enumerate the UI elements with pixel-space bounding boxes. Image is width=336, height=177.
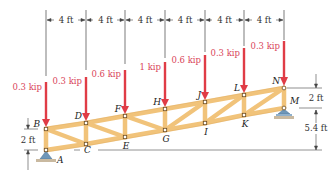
load-label-d: 0.3 kip <box>52 76 82 86</box>
node-label-m: M <box>289 96 300 106</box>
load-label-j: 0.6 kip <box>171 55 201 65</box>
load-label-n: 0.3 kip <box>250 41 280 51</box>
load-label-b: 0.3 kip <box>12 82 42 92</box>
dimension-label: 4 ft <box>217 15 232 25</box>
node-label-c: C <box>84 145 91 155</box>
node-label-h: H <box>152 97 161 107</box>
dimension-label: 4 ft <box>59 15 74 25</box>
pin-support-a <box>36 151 56 162</box>
dimension-label: 4 ft <box>138 15 153 25</box>
node-label-l: L <box>233 83 240 93</box>
node-label-b: B <box>32 119 40 129</box>
right-dimension-label-top: 2 ft <box>309 93 324 103</box>
node-label-k: K <box>241 119 250 129</box>
right-height-dimensions <box>287 74 322 150</box>
node-label-g: G <box>162 134 169 144</box>
dimension-label: 4 ft <box>257 15 272 25</box>
dimension-label: 4 ft <box>98 15 113 25</box>
node-label-e: E <box>122 141 130 151</box>
node-label-a: A <box>56 155 64 165</box>
node-label-n: N <box>271 76 281 86</box>
load-label-h: 1 kip <box>140 62 162 72</box>
load-label-l: 0.3 kip <box>210 48 240 58</box>
node-label-i: I <box>203 127 208 137</box>
load-label-f: 0.6 kip <box>91 69 121 79</box>
node-label-f: F <box>114 104 122 114</box>
node-label-d: D <box>74 111 82 121</box>
truss-diagram: 4 ft 4 ft 4 ft 4 ft 4 ft 4 ft <box>0 0 336 177</box>
right-dimension-label-bottom: 5.4 ft <box>305 123 328 133</box>
left-dimension-label: 2 ft <box>21 135 36 145</box>
node-label-j: J <box>195 90 202 100</box>
dimension-label: 4 ft <box>178 15 193 25</box>
